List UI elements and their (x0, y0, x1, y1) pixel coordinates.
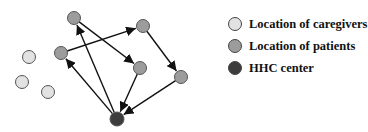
caregiver-node (42, 86, 55, 99)
route-arrow (79, 22, 134, 64)
caregiver-node (16, 76, 29, 89)
legend-item-hhc-center: HHC center (228, 57, 368, 79)
route-arrow (147, 31, 177, 71)
center-node (110, 112, 124, 126)
nodes (16, 12, 188, 127)
patient-node (134, 62, 147, 75)
patient-marker-icon (228, 39, 242, 53)
patient-node (68, 12, 81, 25)
route-arrow (120, 74, 137, 112)
legend-label: HHC center (249, 61, 314, 76)
route-arrow (66, 59, 113, 114)
legend-item-patients: Location of patients (228, 35, 368, 57)
patient-node (175, 71, 188, 84)
route-arrow (77, 25, 114, 113)
caregiver-node (23, 51, 36, 64)
hhc-center-marker-icon (228, 61, 242, 75)
legend: Location of caregivers Location of patie… (228, 13, 368, 79)
legend-item-caregivers: Location of caregivers (228, 13, 368, 35)
edges (66, 22, 177, 115)
patient-node (137, 20, 150, 33)
patient-node (55, 47, 68, 60)
legend-label: Location of caregivers (249, 17, 368, 32)
legend-label: Location of patients (249, 39, 355, 54)
caregiver-marker-icon (228, 17, 242, 31)
